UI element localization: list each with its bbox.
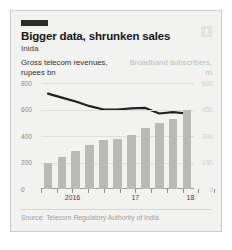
- gridline: [41, 110, 194, 111]
- plot-inner: [41, 83, 194, 189]
- gridline: [41, 83, 194, 84]
- right-axis-tick-label: 150: [195, 159, 213, 166]
- x-axis-tick: [151, 189, 152, 193]
- plot-area: 0200400600800 0150300450600: [21, 83, 213, 189]
- right-axis-tick-label: 450: [195, 106, 213, 113]
- x-axis-tick: [88, 189, 89, 193]
- x-axis-tick: [183, 189, 184, 193]
- right-axis-title: Broadband subscribers, m: [126, 58, 212, 77]
- x-axis: 20161718: [41, 189, 214, 207]
- chart-source: Source: Telecom Regulatory Authority of …: [21, 214, 159, 221]
- chart-card: 1 Bigger data, shrunken sales Inida Gros…: [10, 10, 222, 232]
- bar: [44, 163, 53, 190]
- x-axis-tick: [57, 189, 58, 193]
- chart-number-badge: 1: [201, 26, 212, 37]
- x-axis-tick-label: 2016: [65, 194, 81, 201]
- x-axis-tick-label: 17: [131, 194, 139, 201]
- bar: [155, 123, 164, 189]
- left-axis-title: Gross telecom revenues, rupees bn: [21, 58, 111, 77]
- bar: [71, 151, 80, 189]
- chart-subhead: Inida: [21, 44, 38, 53]
- x-axis-tick: [167, 189, 168, 193]
- chart-headline: Bigger data, shrunken sales: [21, 30, 201, 42]
- bar: [141, 128, 150, 189]
- bar: [99, 140, 108, 189]
- brand-marker: [21, 20, 48, 26]
- bar: [58, 157, 67, 189]
- source-divider: [21, 209, 212, 210]
- left-axis-tick-label: 800: [21, 80, 39, 87]
- right-axis-tick-label: 300: [195, 133, 213, 140]
- bar: [113, 139, 122, 189]
- bar: [183, 110, 192, 189]
- bar: [127, 135, 136, 189]
- left-axis-tick-label: 0: [21, 186, 39, 193]
- x-axis-tick-label: 18: [187, 194, 195, 201]
- x-axis-tick: [104, 189, 105, 193]
- x-axis-tick: [72, 189, 73, 193]
- x-axis-tick: [198, 189, 199, 193]
- left-axis-tick-label: 200: [21, 159, 39, 166]
- bar: [169, 119, 178, 189]
- x-axis-tick: [135, 189, 136, 193]
- right-axis-tick-label: 600: [195, 80, 213, 87]
- bar: [85, 145, 94, 189]
- x-axis-tick: [120, 189, 121, 193]
- x-axis-tick: [214, 189, 215, 193]
- left-axis-tick-label: 600: [21, 106, 39, 113]
- left-axis-tick-label: 400: [21, 133, 39, 140]
- x-axis-tick: [41, 189, 42, 193]
